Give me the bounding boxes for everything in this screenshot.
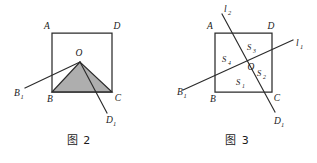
- label-o-figure-2: O: [76, 48, 83, 58]
- label-b-figure-3: B: [210, 94, 216, 104]
- area-label-s1-base: S: [236, 77, 241, 87]
- figure-2-panel: A D C B O B 1 D 1 图 2: [0, 0, 158, 163]
- area-label-s4-base: S: [222, 54, 227, 64]
- label-b1-base-figure-2: B: [14, 88, 20, 98]
- label-a-figure-2: A: [43, 21, 50, 31]
- label-d-figure-3: D: [267, 21, 275, 31]
- area-label-s1-figure-3: S 1: [236, 77, 245, 89]
- label-d1-figure-2: D 1: [105, 115, 116, 127]
- figure-sheet: A D C B O B 1 D 1 图 2: [0, 0, 317, 163]
- label-d1-sub-figure-3: 1: [281, 121, 284, 128]
- label-l1-sub-figure-3: 1: [300, 43, 303, 50]
- label-a-figure-3: A: [206, 21, 213, 31]
- figure-3-panel: A D C B O B 1 D 1 l 1 l 2: [158, 0, 317, 163]
- label-l2-sub-figure-3: 2: [228, 9, 232, 16]
- figure-2-caption: 图 2: [0, 131, 158, 147]
- area-label-s3-figure-3: S 3: [247, 42, 256, 54]
- label-b-figure-2: B: [47, 94, 53, 104]
- area-label-s4-figure-3: S 4: [222, 54, 231, 66]
- figure-2-drawing: A D C B O B 1 D 1: [0, 0, 158, 131]
- area-label-s2-sub: 2: [263, 74, 266, 80]
- figure-3-drawing: A D C B O B 1 D 1 l 1 l 2: [158, 0, 317, 131]
- label-o-figure-3: O: [248, 62, 255, 72]
- label-d1-base-figure-2: D: [105, 115, 113, 125]
- area-label-s2-base: S: [257, 68, 262, 78]
- label-d1-base-figure-3: D: [273, 116, 281, 126]
- label-d1-sub-figure-2: 1: [113, 120, 116, 127]
- figure-3-caption: 图 3: [158, 131, 317, 147]
- label-b1-figure-2: B 1: [14, 88, 24, 100]
- area-label-s3-base: S: [247, 42, 252, 52]
- label-line-l2-figure-3: l 2: [224, 4, 232, 16]
- label-b1-sub-figure-3: 1: [184, 92, 187, 99]
- label-b1-sub-figure-2: 1: [21, 93, 24, 100]
- label-l2-base-figure-3: l: [224, 4, 227, 14]
- label-line-l1-figure-3: l 1: [296, 38, 303, 50]
- area-label-s1-sub: 1: [242, 83, 245, 89]
- label-b1-base-figure-3: B: [177, 87, 183, 97]
- label-l1-base-figure-3: l: [296, 38, 299, 48]
- area-label-s2-figure-3: S 2: [257, 68, 266, 80]
- label-c-figure-2: C: [115, 93, 122, 103]
- label-d-figure-2: D: [113, 21, 121, 31]
- area-label-s3-sub: 3: [252, 48, 256, 54]
- label-d1-figure-3: D 1: [273, 116, 284, 128]
- area-label-s4-sub: 4: [228, 60, 231, 66]
- label-c-figure-3: C: [274, 93, 281, 103]
